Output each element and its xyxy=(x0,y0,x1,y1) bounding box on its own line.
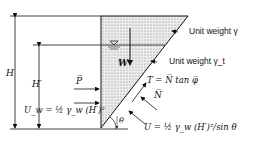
label-unit-weight-gamma-t: Unit weight γ_t xyxy=(169,57,225,66)
label-Uw: U_w = ½ γ_w (H′)² xyxy=(24,106,105,115)
label-theta: θ xyxy=(119,117,124,125)
label-W: W xyxy=(118,59,128,68)
label-H-prime: H′ xyxy=(32,80,42,89)
label-U: U = ½ γ_w (H′)²/sin θ xyxy=(144,123,237,132)
label-N: N̅ xyxy=(154,91,162,100)
label-T: T = N̅ tan φ̅ xyxy=(147,76,198,85)
label-H: H xyxy=(6,69,14,78)
label-unit-weight-gamma: Unit weight γ xyxy=(189,27,238,36)
label-P: P̅ xyxy=(76,77,82,86)
soil-wedge xyxy=(101,16,188,128)
